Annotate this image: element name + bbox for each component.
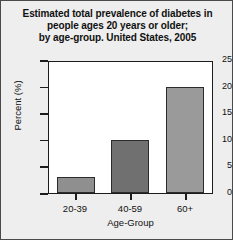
y-tick-25: [40, 60, 48, 62]
chart-title-line-3: by age-group. United States, 2005: [1, 32, 233, 44]
chart-title-line-1: Estimated total prevalence of diabetes i…: [1, 8, 233, 20]
y-tick-10: [40, 140, 48, 142]
x-tick-60-plus: [185, 194, 187, 200]
bar-20-39: [57, 177, 95, 193]
x-tick-label-60-plus: 60+: [155, 203, 215, 214]
plot-area: [48, 61, 213, 194]
bar-40-59: [111, 140, 149, 193]
chart-title-line-2: people ages 20 years or older;: [1, 20, 233, 32]
x-tick-40-59: [130, 194, 132, 200]
chart-title: Estimated total prevalence of diabetes i…: [1, 8, 233, 44]
x-tick-label-20-39: 20-39: [45, 203, 105, 214]
y-tick-15: [40, 113, 48, 115]
chart-figure: Estimated total prevalence of diabetes i…: [0, 0, 233, 240]
x-tick-20-39: [75, 194, 77, 200]
y-tick-5: [40, 166, 48, 168]
y-tick-0: [40, 193, 48, 195]
x-tick-label-40-59: 40-59: [100, 203, 160, 214]
bar-series: [49, 62, 212, 193]
bar-60-plus: [166, 87, 204, 193]
y-tick-20: [40, 87, 48, 89]
y-axis-title: Percent (%): [12, 56, 23, 156]
x-axis-title: Age-Group: [48, 217, 213, 228]
